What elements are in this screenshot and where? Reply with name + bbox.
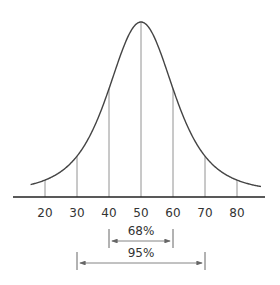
normal-curve (31, 22, 261, 187)
chart-svg: 2030405060708068%95% (0, 0, 280, 285)
tick-label-80: 80 (229, 206, 244, 220)
interval-label-95%: 95% (128, 246, 155, 260)
interval-label-68%: 68% (128, 224, 155, 238)
tick-label-40: 40 (101, 206, 116, 220)
tick-label-20: 20 (37, 206, 52, 220)
normal-distribution-diagram: 2030405060708068%95% (0, 0, 280, 285)
tick-label-70: 70 (197, 206, 212, 220)
tick-label-30: 30 (69, 206, 84, 220)
tick-label-50: 50 (133, 206, 148, 220)
tick-label-60: 60 (165, 206, 180, 220)
